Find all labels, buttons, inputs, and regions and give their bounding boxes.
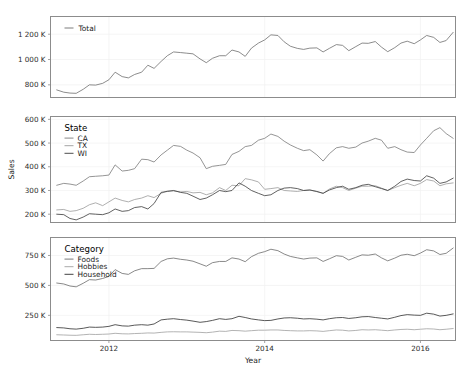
y-tick-label: 200 K	[25, 210, 46, 219]
panel-category-svg: 250 K500 K750 KCategoryFoodsHobbiesHouse…	[0, 228, 469, 374]
y-tick-label: 300 K	[25, 186, 46, 195]
y-tick-label: 1 000 K	[18, 55, 46, 64]
y-tick-label: 750 K	[25, 251, 46, 260]
series-line-foods	[57, 248, 453, 287]
series-line-wi	[57, 176, 453, 220]
plot-frame	[51, 117, 456, 223]
plot-frame	[51, 238, 456, 341]
panel-state-svg: 200 K300 K400 K500 K600 KSalesStateCATXW…	[0, 106, 469, 228]
x-tick-label: 2014	[256, 344, 275, 353]
x-tick-label: 2012	[100, 344, 118, 353]
legend-title: Total	[78, 24, 96, 33]
legend-title: Category	[65, 244, 104, 254]
y-tick-label: 500 K	[25, 139, 46, 148]
series-line-total	[57, 32, 453, 93]
x-tick-label: 2016	[411, 344, 430, 353]
x-axis-title: Year	[244, 356, 262, 365]
y-tick-label: 1 200 K	[18, 30, 46, 39]
figure-root: 800 K1 000 K1 200 KTotal 200 K300 K400 K…	[0, 0, 469, 374]
y-tick-label: 600 K	[25, 115, 46, 124]
series-line-ca	[57, 128, 453, 186]
panel-category: 250 K500 K750 KCategoryFoodsHobbiesHouse…	[0, 228, 469, 374]
panel-total: 800 K1 000 K1 200 KTotal	[0, 0, 469, 106]
y-tick-label: 250 K	[25, 311, 46, 320]
series-line-hobbies	[57, 329, 453, 336]
legend-label-household: Household	[78, 270, 117, 279]
series-line-tx	[57, 179, 453, 212]
plot-frame	[51, 17, 456, 98]
panel-state: 200 K300 K400 K500 K600 KSalesStateCATXW…	[0, 106, 469, 228]
legend-label-wi: WI	[78, 149, 88, 158]
panel-total-svg: 800 K1 000 K1 200 KTotal	[0, 0, 469, 106]
legend-title: State	[65, 123, 88, 133]
y-tick-label: 400 K	[25, 162, 46, 171]
y-tick-label: 500 K	[25, 281, 46, 290]
y-axis-title: Sales	[7, 159, 16, 179]
y-tick-label: 800 K	[25, 80, 46, 89]
